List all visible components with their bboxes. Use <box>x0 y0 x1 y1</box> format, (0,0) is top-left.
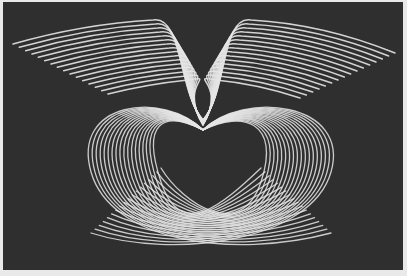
image-frame: Wireframe line-art figure of a pair of w… <box>3 2 403 270</box>
winged-heart-line-art <box>3 2 403 270</box>
body-curve-left <box>153 121 261 213</box>
